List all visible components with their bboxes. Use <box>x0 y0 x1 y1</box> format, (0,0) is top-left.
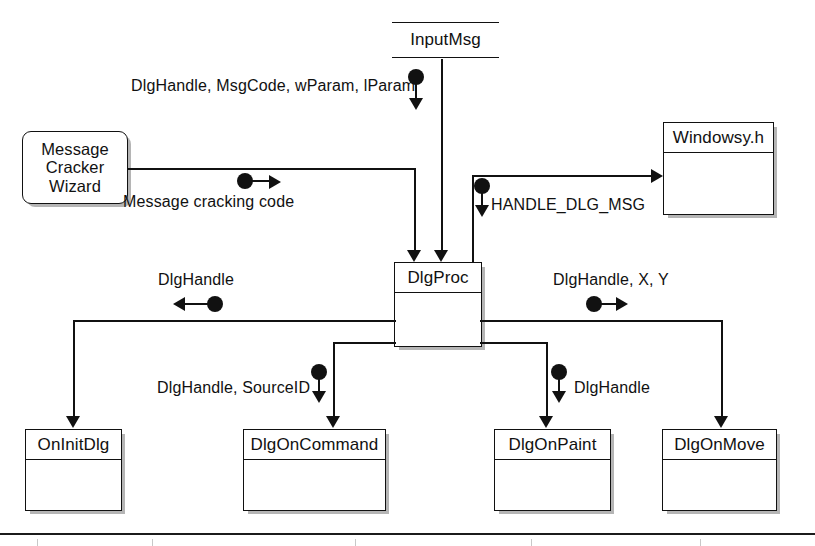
edge-dlgproc-to-dlgonpaint-vertical <box>546 342 548 420</box>
node-inputmsg-label: InputMsg <box>392 22 499 58</box>
arrowhead-dlgproc-to-windowsyh <box>651 169 663 183</box>
edge-label-dlghandle-sourceid: DlgHandle, SourceID <box>157 379 310 397</box>
node-dlgproc-label: DlgProc <box>395 263 481 293</box>
edge-inputmsg-to-dlgproc <box>441 59 443 255</box>
footer-tick <box>152 539 153 546</box>
node-dlgonmove-body <box>663 460 776 510</box>
node-oninitdlg[interactable]: OnInitDlg <box>25 429 122 511</box>
node-dlgoncommand[interactable]: DlgOnCommand <box>243 429 386 511</box>
node-dlgproc[interactable]: DlgProc <box>394 262 482 347</box>
node-dlgoncommand-body <box>244 460 385 510</box>
node-dlgproc-body <box>395 293 481 346</box>
edge-dlgproc-to-dlgonpaint-horizontal <box>480 342 548 344</box>
arrowhead-dlgproc-to-dlgonpaint <box>539 416 553 428</box>
edge-dlgproc-to-dlgonmove-horizontal <box>480 320 723 322</box>
flow-arrowhead-right-icon <box>269 175 281 189</box>
node-oninitdlg-label: OnInitDlg <box>26 430 121 460</box>
edge-dlgproc-to-dlgoncommand-vertical <box>333 342 335 420</box>
edge-label-message-cracking-code: Message cracking code <box>123 193 294 211</box>
footer-tick <box>700 539 701 546</box>
page-footer-rule <box>0 533 815 535</box>
node-dlgonmove-label: DlgOnMove <box>663 430 776 460</box>
arrowhead-dlgproc-to-dlgonmove <box>714 416 728 428</box>
flow-stem <box>185 303 210 305</box>
footer-tick <box>355 539 356 546</box>
edge-dlgproc-to-dlgoncommand-horizontal <box>333 342 396 344</box>
flow-arrowhead-down-icon <box>312 391 326 403</box>
node-dlgoncommand-label: DlgOnCommand <box>244 430 385 460</box>
wizard-label-line-2: Cracker <box>46 158 104 176</box>
diagram-canvas: InputMsg Message Cracker Wizard Windowsy… <box>0 0 815 546</box>
node-dlgonmove[interactable]: DlgOnMove <box>662 429 777 511</box>
footer-tick <box>531 539 532 546</box>
node-message-cracker-wizard-label: Message Cracker Wizard <box>23 132 127 203</box>
edge-label-dlghandle-oninitdlg: DlgHandle <box>158 271 234 289</box>
node-windowsy-h-body <box>664 153 773 214</box>
edge-label-dlghandle-dlgonpaint: DlgHandle <box>574 379 650 397</box>
edge-dlgproc-to-oninitdlg-horizontal <box>73 320 396 322</box>
flow-arrowhead-down-icon <box>475 205 489 217</box>
arrowhead-dlgproc-to-oninitdlg <box>66 416 80 428</box>
edge-dlgproc-to-oninitdlg-vertical <box>73 320 75 420</box>
flow-stem <box>245 180 271 182</box>
node-inputmsg[interactable]: InputMsg <box>392 22 499 59</box>
edge-dlgproc-to-windowsyh-horizontal <box>472 175 652 177</box>
edge-dlgproc-to-dlgonmove-vertical <box>721 320 723 420</box>
node-windowsy-h-label: Windowsy.h <box>664 123 773 153</box>
flow-arrowhead-right-icon <box>616 297 628 311</box>
flow-arrowhead-down-icon <box>409 98 423 110</box>
arrowhead-inputmsg-to-dlgproc <box>434 250 448 262</box>
node-dlgonpaint-body <box>495 460 610 510</box>
arrowhead-wizard-to-dlgproc <box>407 250 421 262</box>
node-message-cracker-wizard[interactable]: Message Cracker Wizard <box>22 131 128 204</box>
footer-tick <box>37 539 38 546</box>
edge-wizard-to-dlgproc-horizontal <box>128 168 416 170</box>
arrowhead-dlgproc-to-dlgoncommand <box>326 416 340 428</box>
wizard-label-line-1: Message <box>41 140 109 158</box>
flow-arrowhead-down-icon <box>552 391 566 403</box>
node-oninitdlg-body <box>26 460 121 510</box>
flow-stem <box>594 303 618 305</box>
flow-arrowhead-left-icon <box>173 297 185 311</box>
node-windowsy-h[interactable]: Windowsy.h <box>663 122 774 215</box>
node-dlgonpaint[interactable]: DlgOnPaint <box>494 429 611 511</box>
edge-label-dlghandle-x-y: DlgHandle, X, Y <box>553 271 669 289</box>
node-dlgonpaint-label: DlgOnPaint <box>495 430 610 460</box>
wizard-label-line-3: Wizard <box>49 177 101 195</box>
edge-wizard-to-dlgproc-vertical <box>414 168 416 255</box>
edge-label-handle-dlg-msg: HANDLE_DLG_MSG <box>491 196 645 214</box>
edge-label-dlghandle-msgcode-wparam-lparam: DlgHandle, MsgCode, wParam, lParam <box>131 77 415 95</box>
